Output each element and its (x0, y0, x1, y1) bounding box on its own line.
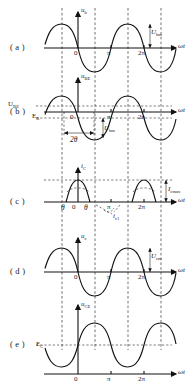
waveform-canvas (0, 0, 196, 391)
panel-e-y-axis-subscript: CE (85, 304, 91, 309)
panel-b-tick-2pi: 2π (138, 113, 145, 121)
vertical-tie-lines (62, 8, 161, 350)
panel-label-a: ( a ) (10, 42, 25, 52)
panel-c-y-axis-label: iC (81, 162, 86, 171)
panel-d-tick-pi: π (107, 273, 111, 281)
panel-e-tick-pi: π (107, 375, 111, 383)
panel-d-amplitude-subscript: cm (156, 256, 162, 261)
panel-c-y-axis-subscript: C (83, 166, 86, 171)
panel-b-tick-pi: π (107, 113, 111, 121)
panel-b-level-ube: UBE (8, 100, 19, 109)
panel-d-tick-2pi: 2π (138, 273, 145, 281)
panel-d-x-axis-label: ωt (178, 266, 185, 274)
panel-a-y-axis-subscript: b (85, 10, 87, 15)
panel-c-tick-2pi: 2π (138, 203, 145, 211)
panel-label-c: ( c ) (10, 196, 25, 206)
panel-b-level-ube-subscript: BE (13, 104, 19, 109)
panel-c-amplitude-label: Icmax (168, 185, 180, 194)
panel-b-amplitude-subscript: bm (109, 128, 115, 133)
panel-b-amplitude-label: Ubm (104, 124, 115, 133)
conduction-angle-label: 2θ (70, 135, 77, 144)
panel-b-tick-0: 0 (70, 113, 74, 121)
panel-a-tick-2pi: 2π (138, 49, 145, 57)
panel-d-amplitude-label: Ucm (151, 252, 162, 261)
panel-a-amplitude-label: Ubm (151, 28, 162, 37)
panel-c-theta-right: θ (84, 203, 88, 212)
panel-d-tick-0: 0 (74, 273, 78, 281)
panel-a-x-axis-label: ωt (178, 42, 185, 50)
panel-e-tick-2pi: 2π (138, 375, 145, 383)
panel-b-y-axis-label: uBE (81, 72, 90, 81)
panel-a-graph (44, 12, 176, 72)
panel-c-x-axis-label: ωt (178, 196, 185, 204)
panel-c-tick-pi: π (107, 203, 111, 211)
panel-d-y-axis-subscript: c (85, 236, 87, 241)
panel-label-e: ( e ) (10, 339, 25, 349)
panel-c-fundamental-subscript: c1 (115, 216, 119, 221)
panel-b-level-eb-subscript: B (36, 116, 39, 121)
panel-a-tick-0: 0 (74, 49, 78, 57)
panel-e-graph (36, 305, 176, 376)
panel-a-tick-pi: π (107, 49, 111, 57)
panel-c-theta-left: θ (61, 203, 65, 212)
panel-b-x-axis-label: ωt (178, 106, 185, 114)
panel-b-y-axis-subscript: BE (85, 76, 91, 81)
panel-d-y-axis-label: uc (81, 232, 87, 241)
waveform-figure: ( a ) ( b ) ( c ) ( d ) ( e ) ub 0 π 2π … (0, 0, 196, 391)
panel-c-amplitude-subscript: cmax (170, 189, 180, 194)
panel-c-tick-0: 0 (72, 203, 76, 211)
panel-e-level-ec-subscript: C (40, 344, 43, 349)
panel-e-tick-0: 0 (74, 375, 78, 383)
panel-e-level-ec: EC (36, 340, 43, 349)
panel-d-graph (44, 238, 176, 296)
panel-e-y-axis-label: uCE (81, 300, 90, 309)
panel-c-fundamental-label: ic1 (113, 212, 119, 221)
panel-a-amplitude-subscript: bm (156, 32, 162, 37)
panel-label-d: ( d ) (10, 266, 25, 276)
panel-b-level-eb: EB (32, 112, 39, 121)
panel-a-y-axis-label: ub (81, 6, 87, 15)
panel-e-x-axis-label: ωt (178, 368, 185, 376)
